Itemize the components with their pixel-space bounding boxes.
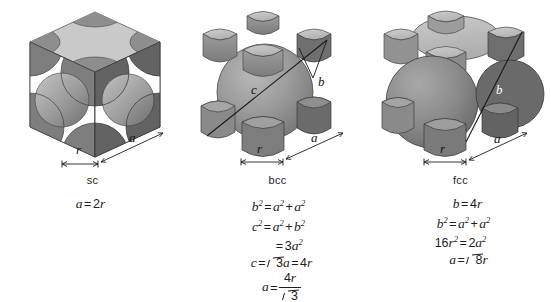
equation-line: a=2r: [0, 196, 185, 213]
unit-cell-bcc: r a b c bcc b2=a2+a2 c2=a2+b2 =3a2 c=3a=…: [185, 0, 370, 302]
equation-line: =3a2: [185, 235, 370, 255]
equation-line: b2=a2+a2: [370, 213, 551, 233]
bcc-dim-b: b: [318, 74, 325, 90]
equation-line: b=4r: [370, 196, 551, 213]
crystal-structure-figure: r a sc a=2r: [0, 0, 551, 302]
bcc-dim-a: a: [311, 130, 318, 146]
fcc-dim-a: a: [494, 131, 501, 147]
bcc-dim-c: c: [251, 82, 257, 98]
sc-dim-r: r: [76, 142, 81, 158]
fcc-equations: b=4r b2=a2+a2 16r2=2a2 a=8r: [370, 196, 551, 268]
fcc-label: fcc: [370, 174, 551, 186]
fcc-dim-r: r: [440, 141, 445, 157]
unit-cell-sc: r a sc a=2r: [0, 0, 185, 302]
bcc-illustration: r a b c: [185, 2, 370, 174]
equation-line: a=8r: [370, 252, 551, 269]
sc-dim-a: a: [129, 130, 136, 146]
fcc-illustration: r a b: [370, 2, 551, 174]
bcc-equations: b2=a2+a2 c2=a2+b2 =3a2 c=3a=4r a=4r3: [185, 196, 370, 302]
equation-line: a=4r3: [185, 271, 370, 302]
equation-line: c=3a=4r: [185, 255, 370, 272]
fcc-dim-b: b: [496, 82, 503, 98]
equation-line: c2=a2+b2: [185, 216, 370, 236]
bcc-label: bcc: [185, 174, 370, 186]
equation-line: b2=a2+a2: [185, 196, 370, 216]
sc-label: sc: [0, 174, 185, 186]
unit-cell-fcc: r a b fcc b=4r b2=a2+a2 16r2=2a2 a=8r: [370, 0, 551, 302]
sc-illustration: r a: [0, 2, 185, 174]
sc-equations: a=2r: [0, 196, 185, 213]
bcc-dim-r: r: [257, 141, 262, 157]
equation-line: 16r2=2a2: [370, 232, 551, 252]
